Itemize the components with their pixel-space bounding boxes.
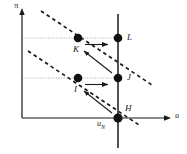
point-label-K: K — [73, 45, 79, 54]
x-axis-label: u — [175, 112, 179, 120]
point-L — [114, 34, 123, 43]
point-J — [114, 74, 123, 83]
point-H — [113, 113, 122, 122]
point-label-H: H — [125, 104, 132, 113]
point-I — [74, 74, 83, 83]
x-axis-arrowhead — [164, 115, 171, 120]
y-axis-arrowhead — [19, 8, 24, 15]
short-run-phillips-curve-lower — [28, 51, 139, 125]
natural-rate-label-subscript: N — [101, 124, 105, 130]
short-run-phillips-curve-upper — [41, 11, 152, 85]
y-axis-label: π — [14, 1, 19, 10]
point-label-J: J — [127, 73, 131, 82]
point-label-L: L — [127, 33, 132, 42]
point-K — [74, 34, 83, 43]
phillips-curve-diagram: π u uN L K J I H — [0, 0, 187, 154]
point-label-I: I — [74, 85, 77, 94]
arrow-J-to-K — [84, 51, 112, 73]
natural-rate-label: uN — [97, 120, 105, 130]
diagram-canvas — [0, 0, 187, 154]
arrow-H-to-I — [84, 91, 112, 113]
